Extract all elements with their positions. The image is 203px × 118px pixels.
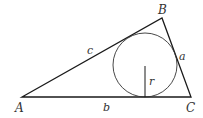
- side-label-c: c: [87, 44, 93, 57]
- side-label-b: b: [103, 101, 110, 114]
- radius-label-r: r: [149, 75, 155, 88]
- side-label-a: a: [179, 50, 186, 63]
- vertex-label-a: A: [14, 101, 24, 115]
- triangle-incircle-diagram: A B C a b c r: [0, 0, 203, 118]
- vertex-label-b: B: [157, 3, 167, 17]
- vertex-label-c: C: [186, 101, 195, 115]
- triangle-abc: [22, 18, 191, 97]
